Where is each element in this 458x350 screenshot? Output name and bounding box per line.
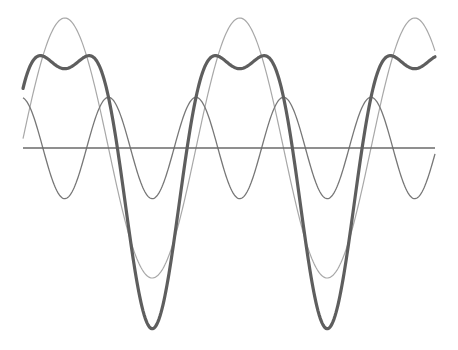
waveform-chart <box>0 0 458 350</box>
chart-canvas <box>0 0 458 350</box>
sum-wave <box>23 56 435 329</box>
